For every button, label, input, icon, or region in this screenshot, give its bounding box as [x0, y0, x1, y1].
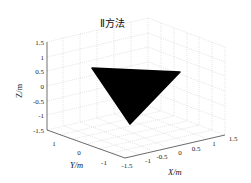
z-axis-label: Z/m — [14, 83, 24, 98]
svg-text:1.5: 1.5 — [229, 135, 238, 143]
svg-text:1: 1 — [52, 140, 56, 148]
data-point-cloud — [92, 68, 180, 124]
y-axis-line — [47, 130, 125, 158]
svg-text:-0.5: -0.5 — [156, 153, 168, 161]
svg-text:1: 1 — [41, 54, 45, 62]
z-tick-labels: 1.5 1 0.5 0 -0.5 -1 -1.5 — [33, 39, 45, 135]
svg-text:-0.5: -0.5 — [33, 98, 45, 106]
svg-text:-1.5: -1.5 — [121, 162, 133, 170]
svg-text:0.5: 0.5 — [35, 68, 44, 76]
svg-text:0: 0 — [41, 83, 45, 91]
x-tick-labels: -1.5 -1 -0.5 0 0.5 1 1.5 — [121, 135, 237, 170]
svg-text:-1.5: -1.5 — [33, 127, 45, 135]
chart-title: Ⅱ方法 — [100, 17, 125, 29]
3d-scatter-plot: Ⅱ方法 1.5 1 0.5 0 -0.5 -1 -1.5 Z/m 1 0 -1 … — [0, 0, 251, 183]
svg-text:1.5: 1.5 — [35, 39, 44, 47]
svg-text:0: 0 — [178, 149, 182, 157]
svg-text:-1: -1 — [38, 112, 44, 120]
svg-text:-1: -1 — [145, 157, 151, 165]
y-axis-label: Y/m — [70, 160, 83, 170]
svg-text:-1: -1 — [101, 159, 107, 167]
svg-text:1: 1 — [212, 140, 216, 148]
x-axis-label: X/m — [167, 167, 182, 177]
svg-text:0: 0 — [77, 149, 81, 157]
svg-text:0.5: 0.5 — [192, 145, 201, 153]
